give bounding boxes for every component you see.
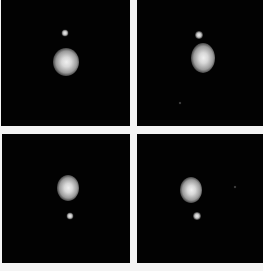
companion-object	[193, 212, 201, 220]
image-panel-bottom-right	[137, 134, 263, 263]
primary-object	[180, 177, 202, 203]
faint-speck	[179, 102, 182, 105]
companion-object	[62, 30, 69, 37]
primary-object	[191, 43, 215, 73]
image-panel-top-right	[137, 0, 263, 126]
primary-object	[57, 175, 79, 201]
companion-object	[67, 213, 74, 220]
image-panel-bottom-left	[2, 134, 130, 263]
image-panel-top-left	[1, 0, 130, 126]
faint-speck	[234, 186, 237, 189]
primary-object	[53, 48, 79, 76]
companion-object	[195, 31, 203, 39]
